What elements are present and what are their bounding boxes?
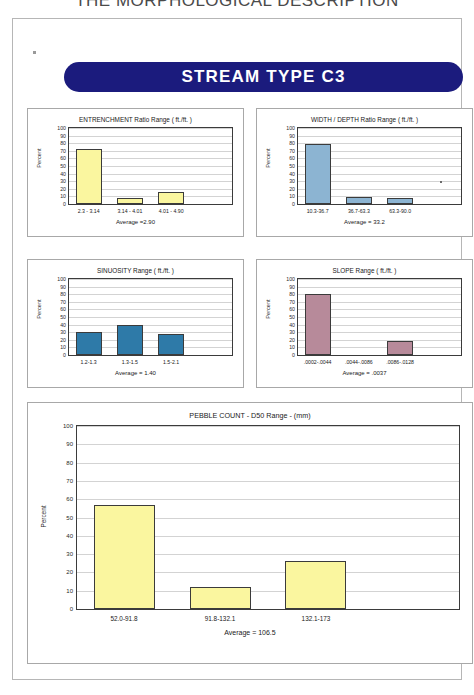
y-axis-tick: 60 <box>44 155 66 161</box>
y-axis-label: Percent <box>36 138 42 178</box>
bar-slot <box>298 279 339 355</box>
y-axis-tick: 0 <box>44 352 66 358</box>
bar-slot-empty <box>420 128 461 204</box>
x-axis-tick: 91.8-132.1 <box>172 615 268 622</box>
y-axis-tick: 30 <box>273 178 295 184</box>
y-axis-tick: 90 <box>49 441 73 447</box>
y-axis-label: Percent <box>265 289 271 329</box>
chart-title: ENTRENCHMENT Ratio Range ( ft./ft. ) <box>28 116 243 123</box>
y-axis-tick: 50 <box>44 314 66 320</box>
bar <box>117 325 143 355</box>
y-axis-tick: 60 <box>44 306 66 312</box>
x-axis-tick: 2.3 - 3.14 <box>68 208 109 214</box>
y-axis-tick: 30 <box>44 178 66 184</box>
y-axis-tick: 50 <box>44 163 66 169</box>
x-axis-ticks: 2.3 - 3.143.14 - 4.014.01 - 4.90 <box>68 208 233 214</box>
x-axis-tick: 52.0-91.8 <box>76 615 172 622</box>
y-axis-tick: 70 <box>44 299 66 305</box>
bar <box>158 334 184 355</box>
x-axis-ticks: .0002-.0044.0044-.0086.0086-.0128 <box>297 359 462 365</box>
average-label: Average = .0037 <box>257 370 472 376</box>
y-axis-tick: 80 <box>44 140 66 146</box>
y-axis-label: Percent <box>265 138 271 178</box>
y-axis-tick: 50 <box>49 515 73 521</box>
y-axis-tick: 40 <box>273 171 295 177</box>
y-axis-tick: 90 <box>44 284 66 290</box>
y-axis-label: Percent <box>36 289 42 329</box>
x-axis-tick-empty <box>192 208 233 214</box>
bar <box>76 149 102 204</box>
bar <box>117 198 143 204</box>
average-label: Average =2.90 <box>28 219 243 225</box>
bar <box>76 332 102 355</box>
y-axis-tick: 90 <box>273 284 295 290</box>
y-axis-tick: 100 <box>49 423 73 429</box>
bar-slot-empty <box>191 279 232 355</box>
y-axis-tick: 20 <box>273 337 295 343</box>
y-axis-tick: 100 <box>273 276 295 282</box>
y-axis-tick: 10 <box>49 588 73 594</box>
bar-slot <box>69 279 110 355</box>
plot-area: 1009080706050403020100 <box>297 278 462 356</box>
x-axis-tick-empty <box>364 615 460 622</box>
document-frame: STREAM TYPE C3 ENTRENCHMENT Ratio Range … <box>12 18 462 680</box>
chart-title: PEBBLE COUNT - D50 Range - (mm) <box>28 411 472 420</box>
bar <box>285 561 346 609</box>
bar-slot <box>380 279 421 355</box>
y-axis-tick: 40 <box>44 322 66 328</box>
y-axis-tick: 40 <box>44 171 66 177</box>
x-axis-tick-empty <box>421 208 462 214</box>
bar-group <box>69 279 232 355</box>
x-axis-tick: 1.5-2.1 <box>151 359 192 365</box>
y-axis-tick: 70 <box>44 148 66 154</box>
plot-area: 1009080706050403020100 <box>68 278 233 356</box>
chart-title: WIDTH / DEPTH Ratio Range ( ft./ft. ) <box>257 116 472 123</box>
y-axis-tick: 100 <box>44 125 66 131</box>
y-axis-tick: 70 <box>273 148 295 154</box>
bar <box>190 587 251 609</box>
plot-area: 1009080706050403020100 <box>297 127 462 205</box>
y-axis-tick: 30 <box>273 329 295 335</box>
x-axis-tick: .0086-.0128 <box>380 359 421 365</box>
x-axis-tick-empty <box>421 359 462 365</box>
x-axis-tick: 1.2-1.3 <box>68 359 109 365</box>
bar <box>387 198 413 204</box>
y-axis-tick: 90 <box>44 133 66 139</box>
x-axis-tick: 3.14 - 4.01 <box>109 208 150 214</box>
y-axis-tick: 10 <box>273 344 295 350</box>
y-axis-tick: 20 <box>49 569 73 575</box>
plot-area: 1009080706050403020100 <box>68 127 233 205</box>
corner-tick-mark <box>33 51 36 54</box>
x-axis-ticks: 1.2-1.31.3-1.51.5-2.1 <box>68 359 233 365</box>
bar-slot-empty <box>364 426 460 609</box>
average-label: Average = 33.2 <box>257 219 472 225</box>
chart-title: SLOPE Range ( ft./ft. ) <box>257 267 472 274</box>
bar-slot <box>339 128 380 204</box>
bar-slot <box>339 279 380 355</box>
y-axis-tick: 50 <box>273 314 295 320</box>
y-axis-tick: 60 <box>273 306 295 312</box>
y-axis-label: Percent <box>40 497 47 537</box>
x-axis-tick: 36.7-63.3 <box>338 208 379 214</box>
y-axis-tick: 70 <box>49 478 73 484</box>
stream-type-label: STREAM TYPE C3 <box>181 67 345 87</box>
chart-title: SINUOSITY Range ( ft./ft. ) <box>28 267 243 274</box>
y-axis-tick: 0 <box>273 201 295 207</box>
average-label: Average = 1.40 <box>28 370 243 376</box>
bar-slot <box>173 426 269 609</box>
x-axis-tick-empty <box>192 359 233 365</box>
y-axis-tick: 40 <box>273 322 295 328</box>
y-axis-tick: 30 <box>44 329 66 335</box>
bar-slot <box>151 128 192 204</box>
bar-slot <box>77 426 173 609</box>
bar-slot <box>69 128 110 204</box>
stray-mark <box>440 181 442 183</box>
x-axis-ticks: 10.3-36.736.7-63.363.3-90.0 <box>297 208 462 214</box>
page-title: THE MORPHOLOGICAL DESCRIPTION <box>0 0 474 11</box>
y-axis-tick: 40 <box>49 533 73 539</box>
bar-group <box>77 426 459 609</box>
y-axis-tick: 20 <box>44 337 66 343</box>
y-axis-tick: 20 <box>273 186 295 192</box>
y-axis-tick: 80 <box>273 140 295 146</box>
bar-group <box>69 128 232 204</box>
